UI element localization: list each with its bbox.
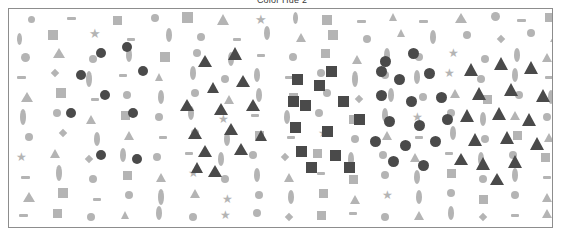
shape-square-distractors bbox=[160, 52, 170, 62]
shape-dash-distractors bbox=[317, 172, 325, 175]
shape-dash-distractors bbox=[517, 19, 526, 22]
shape-ellipse-distractors bbox=[512, 68, 518, 82]
shape-circle-distractors bbox=[25, 133, 33, 141]
shape-triangle-dark-targets bbox=[246, 99, 260, 111]
shape-triangle-distractors bbox=[23, 192, 35, 202]
shape-triangle-distractors bbox=[544, 133, 553, 142]
shape-ellipse-distractors bbox=[17, 33, 22, 45]
star-glyph: ★ bbox=[448, 47, 459, 59]
shape-ellipse-distractors bbox=[512, 168, 518, 182]
shape-square-distractors bbox=[48, 30, 58, 40]
shape-square-dark-targets bbox=[326, 66, 337, 77]
shape-circle-distractors bbox=[221, 175, 229, 183]
shape-dash-distractors bbox=[19, 214, 28, 217]
shape-square-dark-targets bbox=[306, 162, 317, 173]
shape-star-distractors: ★ bbox=[90, 28, 101, 39]
shape-ellipse-distractors bbox=[388, 88, 394, 102]
shape-circle-dark-targets bbox=[128, 108, 138, 118]
shape-square-dark-targets bbox=[290, 122, 301, 133]
shape-square-distractors bbox=[479, 195, 488, 204]
shape-circle-distractors bbox=[255, 191, 263, 199]
shape-circle-dark-targets bbox=[96, 48, 106, 58]
shape-circle-distractors bbox=[479, 175, 487, 183]
shape-dash-distractors bbox=[185, 152, 193, 155]
shape-circle-dark-targets bbox=[406, 96, 417, 107]
shape-triangle-dark-targets bbox=[214, 103, 228, 115]
shape-triangle-distractors bbox=[121, 211, 129, 219]
shape-square-distractors bbox=[113, 16, 122, 25]
shape-dash-distractors bbox=[119, 74, 127, 77]
star-glyph: ★ bbox=[16, 151, 27, 163]
shape-ellipse-distractors bbox=[86, 71, 92, 87]
shape-triangle-dark-targets bbox=[460, 109, 474, 122]
shape-ellipse-distractors bbox=[20, 109, 26, 125]
shape-ellipse-distractors bbox=[414, 170, 420, 184]
shape-diamond-distractors bbox=[281, 153, 289, 161]
shape-triangle-distractors bbox=[455, 13, 467, 23]
shape-triangle-dark-targets bbox=[208, 165, 222, 177]
shape-triangle-dark-targets bbox=[508, 155, 522, 168]
shape-circle-dark-targets bbox=[376, 66, 387, 77]
shape-dash-distractors bbox=[445, 152, 453, 155]
shape-square-dark-targets bbox=[338, 96, 349, 107]
shape-diamond-distractors bbox=[85, 155, 93, 163]
star-glyph: ★ bbox=[220, 209, 231, 221]
shape-circle-dark-targets bbox=[370, 136, 381, 147]
shape-diamond-distractors bbox=[51, 69, 59, 77]
shape-circle-dark-targets bbox=[394, 74, 405, 85]
shape-dash-distractors bbox=[21, 176, 30, 179]
shape-circle-distractors bbox=[481, 55, 489, 63]
shape-triangle-distractors bbox=[352, 55, 362, 64]
shape-triangle-dark-targets bbox=[536, 89, 550, 102]
shape-circle-distractors bbox=[125, 191, 133, 199]
shape-dash-distractors bbox=[349, 212, 357, 215]
shape-circle-distractors bbox=[123, 91, 131, 99]
shape-ellipse-distractors bbox=[158, 189, 164, 205]
shape-square-dark-targets bbox=[354, 114, 365, 125]
shape-circle-distractors bbox=[381, 213, 389, 221]
shape-circle-distractors bbox=[447, 189, 455, 197]
shape-star-distractors: ★ bbox=[256, 14, 267, 25]
shape-circle-dark-targets bbox=[408, 48, 419, 59]
shape-square-distractors bbox=[321, 49, 330, 58]
shape-circle-distractors bbox=[155, 113, 163, 121]
shape-triangle-distractors bbox=[156, 173, 166, 182]
shape-triangle-distractors bbox=[50, 149, 60, 158]
shape-circle-distractors bbox=[543, 113, 551, 121]
shape-dash-distractors bbox=[91, 98, 99, 101]
shape-dash-distractors bbox=[511, 214, 519, 217]
shape-triangle-dark-targets bbox=[224, 123, 238, 135]
shape-circle-dark-targets bbox=[400, 140, 411, 151]
shape-star-distractors: ★ bbox=[220, 210, 230, 220]
shape-ellipse-distractors bbox=[414, 70, 420, 84]
shape-triangle-distractors bbox=[190, 189, 200, 198]
star-glyph: ★ bbox=[255, 13, 267, 26]
shape-diamond-distractors bbox=[479, 213, 487, 221]
shape-diamond-distractors bbox=[497, 35, 505, 43]
shape-ellipse-distractors bbox=[156, 206, 162, 220]
shape-square-distractors bbox=[447, 169, 456, 178]
shape-dash-distractors bbox=[127, 38, 135, 41]
shape-circle-dark-targets bbox=[122, 42, 132, 52]
shape-circle-distractors bbox=[317, 69, 325, 77]
shape-dash-distractors bbox=[287, 136, 295, 139]
shape-triangle-dark-targets bbox=[490, 173, 504, 185]
shape-star-distractors: ★ bbox=[16, 152, 26, 162]
shape-square-distractors bbox=[317, 211, 326, 220]
shape-circle-distractors bbox=[151, 14, 159, 22]
shape-ellipse-distractors bbox=[166, 28, 172, 42]
shape-ellipse-distractors bbox=[56, 165, 62, 181]
shape-dash-distractors bbox=[257, 54, 265, 57]
shape-circle-distractors bbox=[249, 151, 257, 159]
shape-triangle-dark-targets bbox=[524, 61, 538, 74]
shape-dash-distractors bbox=[415, 136, 423, 139]
shape-ellipse-distractors bbox=[264, 26, 270, 40]
shape-triangle-dark-targets bbox=[198, 145, 212, 157]
shape-triangle-dark-targets bbox=[180, 99, 194, 111]
shape-triangle-distractors bbox=[450, 89, 460, 98]
shape-circle-dark-targets bbox=[138, 66, 148, 76]
shape-triangle-dark-targets bbox=[454, 153, 468, 165]
shape-triangle-dark-targets bbox=[228, 47, 242, 60]
shape-triangle-distractors bbox=[217, 14, 229, 25]
shape-triangle-distractors bbox=[414, 211, 424, 220]
